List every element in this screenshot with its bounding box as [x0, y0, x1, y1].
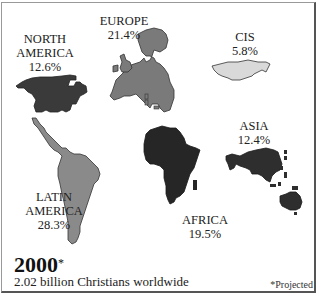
region-name: AFRICA — [180, 213, 230, 227]
ireland-shape — [113, 65, 118, 72]
year-title: 2000* — [14, 254, 64, 276]
new-guinea-shape — [292, 186, 298, 190]
indonesia-shape-2 — [278, 182, 281, 186]
label-asia: ASIA 12.4% — [232, 119, 276, 147]
cis-shape — [212, 60, 270, 80]
sardinia-shape — [145, 100, 148, 105]
region-name-2: AMERICA — [24, 204, 84, 218]
region-value: 12.6% — [14, 60, 76, 74]
asia-shape — [226, 148, 282, 182]
region-value: 28.3% — [24, 218, 84, 232]
region-value: 12.4% — [232, 133, 276, 147]
label-north-america: NORTH AMERICA 12.6% — [14, 32, 76, 74]
label-africa: AFRICA 19.5% — [180, 213, 230, 241]
japan-shape-1 — [284, 150, 287, 154]
corsica-shape — [145, 94, 148, 99]
region-name: EUROPE — [94, 14, 154, 28]
region-value: 19.5% — [180, 227, 230, 241]
indonesia-shape-1 — [270, 184, 276, 187]
taiwan-shape — [280, 166, 283, 170]
sicily-shape — [154, 106, 159, 109]
region-value: 5.8% — [224, 44, 266, 58]
region-name: LATIN — [24, 190, 84, 204]
philippines-shape — [284, 172, 287, 178]
region-name-2: AMERICA — [14, 46, 76, 60]
africa-shape — [144, 126, 200, 204]
label-latin-america: LATIN AMERICA 28.3% — [24, 190, 84, 232]
region-name: NORTH — [14, 32, 76, 46]
japan-shape-2 — [284, 156, 287, 160]
region-name: ASIA — [232, 119, 276, 133]
australia-shape — [280, 192, 302, 210]
britain-shape — [120, 54, 132, 72]
region-value: 21.4% — [94, 28, 154, 42]
subtitle: 2.02 billion Christians worldwide — [14, 274, 189, 290]
label-cis: CIS 5.8% — [224, 30, 266, 58]
north-america-shape — [16, 75, 87, 112]
footnote-projected: *Projected — [270, 279, 313, 290]
projected-marker: * — [58, 256, 64, 270]
region-name: CIS — [224, 30, 266, 44]
tasmania-shape — [294, 212, 297, 215]
madagascar-shape — [193, 180, 197, 190]
label-europe: EUROPE 21.4% — [94, 14, 154, 42]
